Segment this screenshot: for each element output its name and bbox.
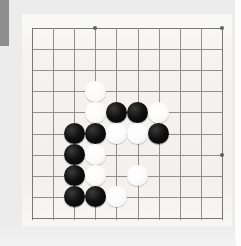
white-stone[interactable] (85, 144, 106, 165)
board-grid (32, 28, 222, 220)
white-stone[interactable] (85, 81, 106, 102)
black-stone[interactable] (85, 186, 106, 207)
grid-line-vertical (222, 28, 223, 220)
grid-line-horizontal (32, 70, 222, 71)
white-stone[interactable] (127, 165, 148, 186)
grid-line-horizontal (32, 197, 222, 198)
white-stone[interactable] (106, 123, 127, 144)
white-stone[interactable] (106, 186, 127, 207)
grid-line-horizontal (32, 28, 222, 29)
star-point (220, 153, 224, 157)
grid-line-horizontal (32, 218, 222, 219)
grid-line-vertical (201, 28, 202, 220)
grid-line-vertical (180, 28, 181, 220)
grid-line-horizontal (32, 155, 222, 156)
page-gutter-marker (0, 0, 9, 46)
grid-line-horizontal (32, 91, 222, 92)
black-stone[interactable] (85, 123, 106, 144)
star-point (220, 26, 224, 30)
screenshot-root (0, 0, 241, 246)
white-stone[interactable] (127, 123, 148, 144)
grid-line-vertical (53, 28, 54, 220)
grid-line-horizontal (32, 49, 222, 50)
white-stone[interactable] (148, 102, 169, 123)
black-stone[interactable] (64, 186, 85, 207)
black-stone[interactable] (106, 102, 127, 123)
grid-line-vertical (32, 28, 33, 220)
black-stone[interactable] (148, 123, 169, 144)
right-margin-strip (235, 0, 241, 246)
black-stone[interactable] (64, 165, 85, 186)
black-stone[interactable] (64, 123, 85, 144)
white-stone[interactable] (85, 102, 106, 123)
star-point (93, 26, 97, 30)
white-stone[interactable] (85, 165, 106, 186)
black-stone[interactable] (127, 102, 148, 123)
black-stone[interactable] (64, 144, 85, 165)
